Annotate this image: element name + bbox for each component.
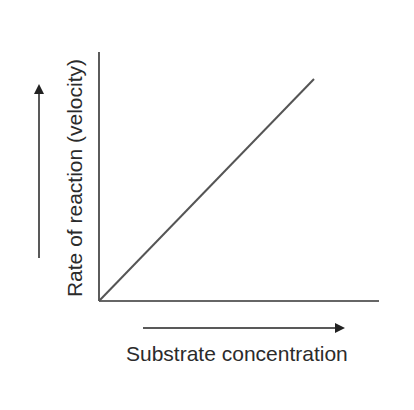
y-axis-label: Rate of reaction (velocity) xyxy=(63,59,87,297)
x-axis-label: Substrate concentration xyxy=(126,342,348,366)
rate-line xyxy=(99,79,314,301)
